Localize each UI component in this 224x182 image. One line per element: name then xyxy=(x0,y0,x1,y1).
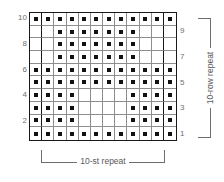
bracket-segment-bottom xyxy=(210,108,211,138)
purl-dot-icon xyxy=(107,68,111,72)
chart-cell xyxy=(30,115,42,128)
purl-dot-icon xyxy=(107,30,111,34)
chart-cell xyxy=(152,127,164,140)
chart-cell xyxy=(127,13,139,26)
row-number-label: 6 xyxy=(8,64,27,77)
chart-cell xyxy=(115,115,127,128)
chart-cell xyxy=(91,127,103,140)
purl-dot-icon xyxy=(131,68,135,72)
bracket-segment-top xyxy=(210,18,211,48)
chart-cell xyxy=(91,64,103,77)
chart-cell xyxy=(67,26,79,39)
chart-cell xyxy=(103,51,115,64)
chart-cell xyxy=(140,13,152,26)
purl-dot-icon xyxy=(155,17,159,21)
chart-cell xyxy=(152,89,164,102)
chart-cell xyxy=(42,38,54,51)
purl-dot-icon xyxy=(107,132,111,136)
chart-cell xyxy=(54,76,66,89)
chart-cell xyxy=(115,127,127,140)
purl-dot-icon xyxy=(131,42,135,46)
chart-cell xyxy=(30,64,42,77)
chart-cell xyxy=(140,76,152,89)
purl-dot-icon xyxy=(58,132,62,136)
purl-dot-icon xyxy=(168,118,172,122)
purl-dot-icon xyxy=(46,93,50,97)
chart-cell xyxy=(67,51,79,64)
stitch-repeat-bracket: 10-st repeat xyxy=(41,150,165,172)
purl-dot-icon xyxy=(82,42,86,46)
chart-cell xyxy=(140,89,152,102)
purl-dot-icon xyxy=(143,17,147,21)
purl-dot-icon xyxy=(107,42,111,46)
purl-dot-icon xyxy=(168,68,172,72)
purl-dot-icon xyxy=(82,55,86,59)
chart-grid-outline xyxy=(29,12,177,141)
chart-cell xyxy=(79,64,91,77)
purl-dot-icon xyxy=(107,17,111,21)
chart-cell xyxy=(42,102,54,115)
row-repeat-label: 10-row repeat xyxy=(205,52,215,104)
purl-dot-icon xyxy=(143,68,147,72)
chart-cell xyxy=(140,38,152,51)
chart-cell xyxy=(103,26,115,39)
chart-cell xyxy=(115,102,127,115)
chart-cell xyxy=(42,51,54,64)
chart-cell xyxy=(115,13,127,26)
purl-dot-icon xyxy=(119,55,123,59)
purl-dot-icon xyxy=(34,80,38,84)
chart-cell xyxy=(164,76,176,89)
chart-cell xyxy=(152,64,164,77)
purl-dot-icon xyxy=(34,17,38,21)
chart-cell xyxy=(42,127,54,140)
chart-cell xyxy=(67,38,79,51)
chart-cell xyxy=(164,102,176,115)
purl-dot-icon xyxy=(143,118,147,122)
purl-dot-icon xyxy=(58,118,62,122)
chart-cell xyxy=(30,38,42,51)
chart-cell xyxy=(152,115,164,128)
chart-cell xyxy=(140,115,152,128)
chart-cell xyxy=(103,89,115,102)
stitch-repeat-label: 10-st repeat xyxy=(41,156,165,166)
row-number-label: 3 xyxy=(180,102,196,115)
chart-cell xyxy=(79,89,91,102)
chart-cell xyxy=(152,26,164,39)
purl-dot-icon xyxy=(143,93,147,97)
purl-dot-icon xyxy=(155,106,159,110)
knitting-chart: 108642 97531 10-st repeat 10-row repeat xyxy=(0,0,224,182)
chart-cell xyxy=(54,13,66,26)
row-repeat-bracket: 10-row repeat xyxy=(198,18,222,138)
chart-cell xyxy=(42,89,54,102)
purl-dot-icon xyxy=(119,68,123,72)
chart-cell xyxy=(152,38,164,51)
purl-dot-icon xyxy=(58,68,62,72)
chart-cell xyxy=(67,64,79,77)
chart-cell xyxy=(127,38,139,51)
purl-dot-icon xyxy=(131,118,135,122)
chart-cell xyxy=(152,13,164,26)
chart-cell xyxy=(103,64,115,77)
chart-cell xyxy=(164,26,176,39)
chart-cell xyxy=(42,26,54,39)
chart-cell xyxy=(164,115,176,128)
row-number-label: 8 xyxy=(8,38,27,51)
chart-cell xyxy=(42,76,54,89)
chart-cell xyxy=(140,51,152,64)
chart-cell xyxy=(91,26,103,39)
chart-cell xyxy=(42,115,54,128)
chart-cell xyxy=(164,38,176,51)
purl-dot-icon xyxy=(58,106,62,110)
purl-dot-icon xyxy=(94,80,98,84)
chart-cell xyxy=(67,127,79,140)
purl-dot-icon xyxy=(34,68,38,72)
purl-dot-icon xyxy=(168,80,172,84)
purl-dot-icon xyxy=(70,55,74,59)
chart-cell xyxy=(91,13,103,26)
purl-dot-icon xyxy=(58,30,62,34)
purl-dot-icon xyxy=(143,106,147,110)
purl-dot-icon xyxy=(70,30,74,34)
purl-dot-icon xyxy=(131,93,135,97)
purl-dot-icon xyxy=(143,80,147,84)
chart-cell xyxy=(164,64,176,77)
